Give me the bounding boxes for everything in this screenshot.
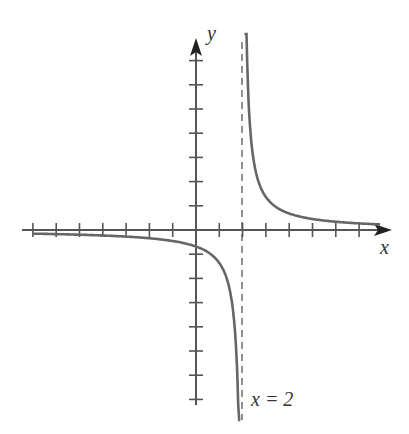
x-axis-label: x	[380, 236, 389, 259]
curve-left-branch	[33, 234, 240, 420]
asymptote-label: x = 2	[251, 388, 293, 411]
graph	[0, 0, 409, 434]
y-axis-label: y	[207, 22, 216, 45]
curve-right-branch	[245, 34, 381, 224]
